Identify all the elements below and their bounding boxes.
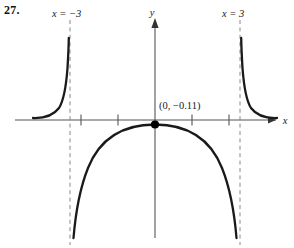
curve-left-branch <box>33 38 69 118</box>
x-axis-label: x <box>282 115 288 126</box>
curve-right-branch <box>241 38 277 118</box>
y-intercept-point <box>151 120 159 128</box>
asymptote-right-label: x = 3 <box>221 8 244 19</box>
y-intercept-label: (0, −0.11) <box>159 100 201 112</box>
figure-page: 27. x = −3 x = 3 y x (0, −0.11) <box>0 0 294 248</box>
y-axis-label: y <box>149 7 155 18</box>
asymptote-left-label: x = −3 <box>51 8 81 19</box>
graph-figure: x = −3 x = 3 y x (0, −0.11) <box>0 0 294 248</box>
y-axis-arrowhead <box>151 18 158 28</box>
